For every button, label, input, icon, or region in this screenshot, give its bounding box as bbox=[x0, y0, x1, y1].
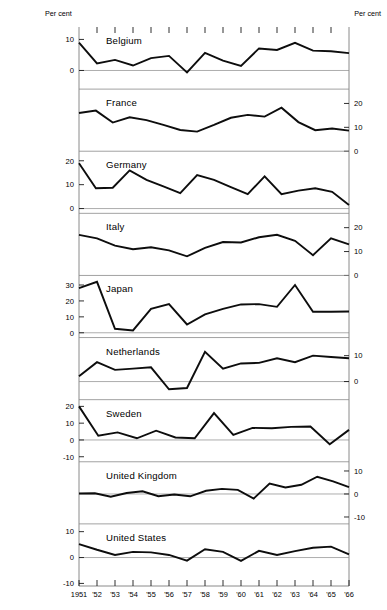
y-tick-label: 0 bbox=[354, 147, 358, 156]
series-line bbox=[79, 43, 349, 73]
y-tick-label: 10 bbox=[354, 467, 362, 476]
chart-canvas: Per centPer cent100Belgium20100France201… bbox=[0, 0, 387, 610]
y-tick-label: 20 bbox=[66, 297, 74, 306]
x-tick-label: '65 bbox=[326, 590, 336, 599]
series-line bbox=[79, 352, 349, 390]
y-tick-label: 20 bbox=[354, 99, 362, 108]
panel-title: Italy bbox=[106, 221, 125, 232]
y-tick-label: 20 bbox=[354, 223, 362, 232]
panel-title: Germany bbox=[106, 159, 147, 170]
panel-france: 20100France bbox=[79, 89, 362, 156]
panel-sweden: 20100-10Sweden bbox=[63, 400, 349, 462]
per-cent-label-left: Per cent bbox=[45, 9, 72, 18]
panel-title: United Kingdom bbox=[106, 470, 177, 481]
x-tick-label: '63 bbox=[290, 590, 300, 599]
panel-japan: 3020100Japan bbox=[66, 275, 349, 337]
panel-united-kingdom: 100-10United Kingdom bbox=[79, 462, 365, 522]
series-line bbox=[79, 235, 349, 256]
x-tick-label: 1951 bbox=[71, 590, 87, 599]
panel-title: Sweden bbox=[106, 408, 142, 419]
y-tick-label: 10 bbox=[66, 527, 74, 536]
panel-title: Japan bbox=[106, 283, 133, 294]
y-tick-label: -10 bbox=[63, 453, 74, 462]
y-tick-label: 0 bbox=[70, 436, 74, 445]
x-tick-label: '61 bbox=[254, 590, 264, 599]
x-tick-label: '64 bbox=[308, 590, 318, 599]
x-tick-label: '52 bbox=[92, 590, 102, 599]
y-tick-label: 0 bbox=[70, 553, 74, 562]
per-cent-label-right: Per cent bbox=[354, 9, 381, 18]
y-tick-label: 10 bbox=[66, 419, 74, 428]
panel-italy: 20100Italy bbox=[79, 213, 362, 280]
y-tick-label: 10 bbox=[354, 123, 362, 132]
series-line bbox=[79, 108, 349, 132]
x-tick-label: '58 bbox=[200, 590, 210, 599]
multi-panel-line-chart: Per centPer cent100Belgium20100France201… bbox=[0, 0, 387, 610]
x-tick-label: '56 bbox=[164, 590, 174, 599]
y-tick-label: -10 bbox=[354, 513, 365, 522]
series-line bbox=[79, 544, 349, 561]
panel-belgium: 100Belgium bbox=[66, 35, 349, 75]
x-tick-label: '54 bbox=[128, 590, 138, 599]
panel-title: Netherlands bbox=[106, 346, 160, 357]
x-tick-label: '60 bbox=[236, 590, 246, 599]
panel-germany: 20100Germany bbox=[66, 151, 349, 213]
y-tick-label: 20 bbox=[66, 157, 74, 166]
y-tick-label: 0 bbox=[354, 377, 358, 386]
y-tick-label: 0 bbox=[70, 329, 74, 338]
x-tick-label: '66 bbox=[344, 590, 354, 599]
panel-united-states: 100-10United States bbox=[63, 524, 349, 588]
y-tick-label: 10 bbox=[66, 180, 74, 189]
y-tick-label: 10 bbox=[354, 351, 362, 360]
y-tick-label: 0 bbox=[70, 66, 74, 75]
x-tick-label: '57 bbox=[182, 590, 192, 599]
y-tick-label: 30 bbox=[66, 281, 74, 290]
y-tick-label: 10 bbox=[66, 313, 74, 322]
y-tick-label: 20 bbox=[66, 402, 74, 411]
panel-title: Belgium bbox=[106, 35, 142, 46]
panel-netherlands: 100Netherlands bbox=[79, 338, 362, 390]
x-tick-label: '59 bbox=[218, 590, 228, 599]
panel-title: France bbox=[106, 97, 137, 108]
y-tick-label: 0 bbox=[354, 490, 358, 499]
y-tick-label: 10 bbox=[66, 35, 74, 44]
x-tick-label: '53 bbox=[110, 590, 120, 599]
y-tick-label: 10 bbox=[354, 247, 362, 256]
y-tick-label: 0 bbox=[354, 271, 358, 280]
x-tick-label: '55 bbox=[146, 590, 156, 599]
panel-title: United States bbox=[106, 532, 166, 543]
x-tick-label: '62 bbox=[272, 590, 282, 599]
y-tick-label: -10 bbox=[63, 579, 74, 588]
y-tick-label: 0 bbox=[70, 204, 74, 213]
